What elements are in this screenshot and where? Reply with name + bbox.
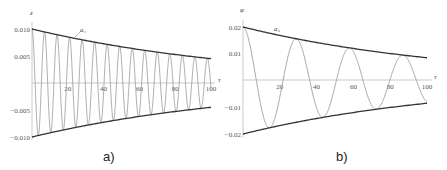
x-tick-label: 60: [350, 83, 358, 91]
y-tick-label: 0.01: [229, 50, 242, 58]
panel-b-x-label: τ: [434, 73, 437, 81]
y-tick-label: −0.005: [10, 107, 30, 115]
panel-b-caption: b): [336, 149, 348, 164]
figure-canvas: 204060801000.0100.005−0.005−0.010 a₁ z τ…: [0, 0, 447, 170]
y-tick-label: −0.01: [225, 104, 242, 112]
x-tick-label: 40: [313, 83, 321, 91]
panel-b-lower-envelope: [243, 103, 427, 134]
panel-a-y-label: z: [29, 9, 33, 17]
x-tick-label: 100: [422, 83, 433, 91]
panel-a-annotation: a₁: [80, 26, 86, 34]
panel-a-caption: a): [103, 149, 115, 164]
panel-b-annotation: a₂: [274, 25, 281, 33]
panel-b-y-label: φ: [240, 6, 244, 14]
y-tick-label: 0.02: [229, 24, 242, 32]
y-tick-label: 0.010: [14, 26, 30, 34]
x-tick-label: 100: [206, 85, 217, 93]
panel-b-upper-envelope: [243, 27, 427, 58]
x-tick-label: 20: [64, 85, 72, 93]
panel-b-oscillation-curve: [243, 27, 427, 128]
y-tick-label: −0.02: [225, 131, 242, 139]
panel-b-chart: 204060801000.020.01−0.01−0.02 a₂ φ τ: [225, 6, 437, 139]
panel-a-lower-envelope: [32, 107, 211, 137]
x-tick-label: 60: [136, 85, 144, 93]
y-tick-label: 0.005: [14, 53, 30, 61]
y-tick-label: −0.010: [10, 134, 30, 142]
panel-a-chart: 204060801000.0100.005−0.005−0.010 a₁ z τ: [10, 9, 221, 142]
panel-a-x-label: τ: [218, 76, 221, 84]
